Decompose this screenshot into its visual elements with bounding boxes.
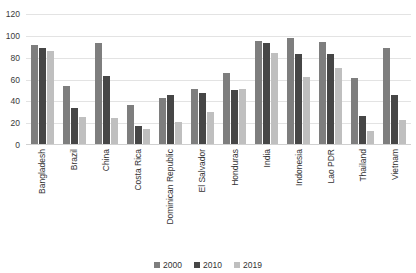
x-axis-label-cell: India [251,146,283,234]
bar[interactable] [239,89,246,145]
x-axis-tick-label: Costa Rica [134,149,143,191]
bar-chart: 020406080100120 BangladeshBrazilChinaCos… [0,0,416,273]
x-axis-tick-label: India [262,149,271,167]
legend-label: 2010 [203,261,222,270]
x-axis-tick-label: China [102,149,111,171]
bar[interactable] [63,86,70,145]
bar-group [186,14,218,145]
legend-swatch-icon [234,262,240,268]
x-axis-label-cell: Lao PDR [315,146,347,234]
chart-legend: 200020102019 [0,261,416,270]
bar[interactable] [79,117,86,145]
bar[interactable] [143,129,150,145]
x-axis-tick-label: Indonesia [294,149,303,186]
bar[interactable] [359,116,366,145]
bar-group [122,14,154,145]
bar[interactable] [39,48,46,145]
y-axis: 020406080100120 [0,14,24,145]
bar[interactable] [207,112,214,145]
x-axis-label-cell: Dominican Republic [154,146,186,234]
bar[interactable] [335,68,342,146]
bar[interactable] [271,53,278,145]
y-axis-tick-label: 100 [6,32,20,41]
bar[interactable] [71,108,78,145]
bar[interactable] [135,126,142,145]
bar-group [251,14,283,145]
bar-group [379,14,411,145]
x-axis-tick-label: El Salvador [198,149,207,192]
x-axis-label-cell: Costa Rica [122,146,154,234]
bar[interactable] [303,77,310,145]
bar[interactable] [127,105,134,145]
x-axis-label-cell: Thailand [347,146,379,234]
y-axis-tick-label: 60 [11,75,20,84]
legend-swatch-icon [154,262,160,268]
bar[interactable] [367,131,374,145]
bar[interactable] [167,95,174,145]
bar[interactable] [399,120,406,145]
bar[interactable] [383,48,390,145]
x-axis-tick-label: Bangladesh [38,149,47,194]
bar[interactable] [47,51,54,145]
bar-group [283,14,315,145]
bar-group [315,14,347,145]
legend-swatch-icon [194,262,200,268]
bar[interactable] [175,122,182,145]
y-axis-tick-label: 0 [15,141,20,150]
x-axis-label-cell: El Salvador [186,146,218,234]
bar[interactable] [31,45,38,145]
legend-item[interactable]: 2000 [154,261,182,270]
legend-label: 2019 [243,261,262,270]
bar[interactable] [159,98,166,145]
bar-group [58,14,90,145]
bar[interactable] [223,73,230,145]
plot-area [26,14,411,145]
bar[interactable] [391,95,398,145]
x-axis-tick-label: Brazil [70,149,79,170]
bar[interactable] [263,43,270,145]
bar[interactable] [191,89,198,145]
bar-group [218,14,250,145]
bar-groups [26,14,411,145]
bar[interactable] [351,78,358,145]
bar[interactable] [255,41,262,145]
x-axis-line [26,144,411,145]
x-axis-tick-label: Dominican Republic [166,149,175,225]
x-axis-labels: BangladeshBrazilChinaCosta RicaDominican… [26,146,411,234]
bar[interactable] [231,90,238,145]
x-axis-label-cell: Honduras [218,146,250,234]
x-axis-tick-label: Lao PDR [326,149,335,184]
bar-group [347,14,379,145]
x-axis-label-cell: Indonesia [283,146,315,234]
bar-group [90,14,122,145]
legend-item[interactable]: 2010 [194,261,222,270]
bar[interactable] [295,54,302,145]
y-axis-tick-label: 80 [11,53,20,62]
legend-label: 2000 [163,261,182,270]
bar[interactable] [327,54,334,145]
legend-item[interactable]: 2019 [234,261,262,270]
x-axis-label-cell: Brazil [58,146,90,234]
bar-group [154,14,186,145]
x-axis-tick-label: Vietnam [391,149,400,180]
bar[interactable] [111,118,118,145]
x-axis-label-cell: Vietnam [379,146,411,234]
bar[interactable] [103,76,110,145]
bar[interactable] [319,42,326,145]
x-axis-label-cell: China [90,146,122,234]
bar[interactable] [287,38,294,145]
y-axis-tick-label: 20 [11,119,20,128]
y-axis-tick-label: 120 [6,10,20,19]
x-axis-tick-label: Thailand [359,149,368,182]
x-axis-label-cell: Bangladesh [26,146,58,234]
bar-group [26,14,58,145]
x-axis-tick-label: Honduras [230,149,239,186]
y-axis-tick-label: 40 [11,97,20,106]
bar[interactable] [199,93,206,145]
bar[interactable] [95,43,102,145]
